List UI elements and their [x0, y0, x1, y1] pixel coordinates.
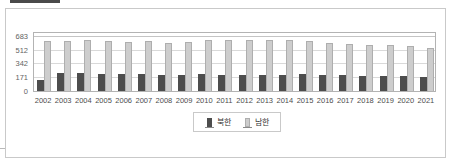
bar-남한-2003 [64, 41, 71, 91]
bar-북한-2016 [319, 75, 326, 92]
y-tick-label: 683 [4, 33, 28, 41]
y-tick-label: 171 [4, 74, 28, 82]
x-tick-label-2008: 2008 [154, 96, 174, 105]
bar-북한-2015 [299, 74, 306, 91]
bar-북한-2014 [279, 75, 286, 91]
legend-item-south: 남한 [243, 117, 269, 128]
bar-남한-2004 [84, 40, 91, 91]
x-tick-label-2012: 2012 [235, 96, 255, 105]
bar-북한-2005 [98, 74, 105, 91]
bar-남한-2013 [266, 40, 273, 91]
y-tick-label: 0 [4, 88, 28, 96]
bar-남한-2020 [407, 46, 414, 91]
bar-남한-2014 [286, 40, 293, 91]
bar-북한-2019 [380, 76, 387, 91]
bar-북한-2010 [198, 74, 205, 91]
x-tick-label-2016: 2016 [315, 96, 335, 105]
x-tick-label-2004: 2004 [73, 96, 93, 105]
bar-남한-2011 [225, 40, 232, 91]
bar-북한-2018 [359, 76, 366, 91]
x-tick-label-2018: 2018 [355, 96, 375, 105]
bar-남한-2017 [346, 44, 353, 91]
bar-남한-2015 [306, 41, 313, 91]
bar-남한-2010 [205, 40, 212, 91]
bar-남한-2016 [326, 43, 333, 91]
x-tick-label-2019: 2019 [376, 96, 396, 105]
bar-남한-2006 [125, 42, 132, 91]
south-bar-marker-icon [243, 117, 252, 128]
x-tick-label-2017: 2017 [335, 96, 355, 105]
cutoff-element-top [10, 0, 60, 3]
bar-북한-2012 [239, 75, 246, 91]
bar-북한-2003 [57, 73, 64, 91]
bar-북한-2013 [259, 75, 266, 91]
y-tick-label: 342 [4, 60, 28, 68]
bar-남한-2012 [246, 40, 253, 91]
bar-남한-2021 [427, 48, 434, 91]
x-tick-label-2003: 2003 [53, 96, 73, 105]
y-tick-label: 512 [4, 47, 28, 55]
bar-남한-2007 [145, 41, 152, 91]
legend-label-north: 북한 [217, 117, 231, 128]
bar-북한-2004 [77, 73, 84, 91]
x-tick-label-2011: 2011 [214, 96, 234, 105]
legend-box: 북한 남한 [193, 112, 281, 132]
x-tick-label-2015: 2015 [295, 96, 315, 105]
bar-남한-2009 [185, 42, 192, 91]
gridline-171 [34, 77, 435, 78]
bar-북한-2021 [420, 77, 427, 91]
x-tick-label-2006: 2006 [114, 96, 134, 105]
bar-북한-2006 [118, 74, 125, 91]
page-background: 0171342512683 20022003200420052006200720… [0, 0, 450, 165]
legend-label-south: 남한 [255, 117, 269, 128]
bar-남한-2005 [105, 41, 112, 91]
bar-북한-2009 [178, 75, 185, 92]
bar-남한-2002 [44, 41, 51, 91]
x-tick-label-2014: 2014 [275, 96, 295, 105]
bar-남한-2008 [165, 43, 172, 91]
gridline-342 [34, 63, 435, 64]
north-bar-marker-icon [205, 117, 214, 128]
x-tick-label-2007: 2007 [134, 96, 154, 105]
x-tick-label-2009: 2009 [174, 96, 194, 105]
x-tick-label-2010: 2010 [194, 96, 214, 105]
x-tick-label-2013: 2013 [255, 96, 275, 105]
bar-북한-2020 [400, 76, 407, 91]
x-tick-label-2005: 2005 [93, 96, 113, 105]
bar-남한-2019 [387, 45, 394, 91]
x-tick-label-2021: 2021 [416, 96, 436, 105]
legend-item-north: 북한 [205, 117, 231, 128]
gridline-512 [34, 50, 435, 51]
bar-북한-2008 [158, 75, 165, 92]
bar-북한-2011 [218, 75, 225, 92]
bar-남한-2018 [366, 45, 373, 91]
bar-북한-2007 [138, 74, 145, 91]
gridline-683 [34, 36, 435, 37]
bar-북한-2017 [339, 75, 346, 91]
bar-북한-2002 [37, 80, 44, 91]
x-tick-label-2020: 2020 [396, 96, 416, 105]
x-tick-label-2002: 2002 [33, 96, 53, 105]
plot-area [33, 32, 436, 92]
